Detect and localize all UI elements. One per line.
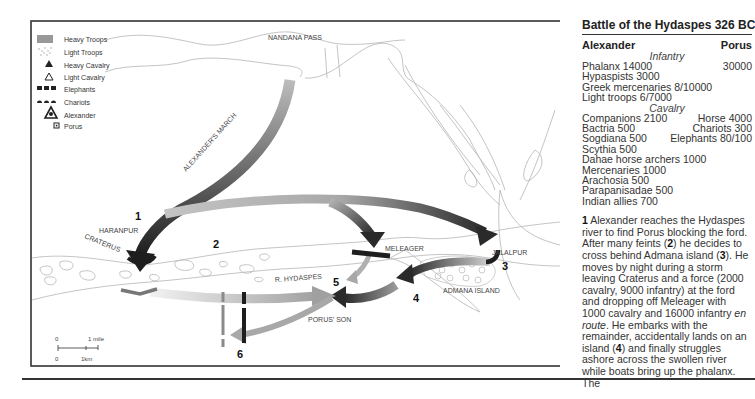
- marker-6: 6: [237, 348, 243, 360]
- marker-4: 4: [413, 292, 420, 304]
- legend-label: Porus: [64, 123, 83, 130]
- legend-label: Light Troops: [64, 49, 103, 57]
- place-label-jalalpur: JALALPUR: [492, 249, 527, 256]
- porus-header: Porus: [721, 40, 752, 51]
- infantry-list: Phalanx 1400030000 Hypaspists 3000 Greek…: [582, 61, 752, 103]
- bottom-rule: [22, 378, 755, 380]
- battle-narrative: 1 Alexander reaches the Hydaspes river t…: [582, 215, 752, 389]
- battle-map: Heavy Troops Light Troops Heavy Cavalry …: [0, 0, 560, 399]
- alexander-unit: Indian allies 700: [582, 196, 658, 206]
- panel-title: Battle of the Hydaspes 326 BC: [582, 18, 752, 35]
- marker-5: 5: [333, 276, 339, 288]
- force-row: Indian allies 700: [582, 196, 752, 206]
- legend-label: Elephants: [64, 86, 96, 94]
- map-frame: [31, 21, 560, 366]
- chariots-icon: [37, 101, 56, 104]
- marker-1: 1: [135, 210, 141, 222]
- elephants-icon: [37, 86, 56, 90]
- marker-2: 2: [213, 238, 219, 250]
- place-label-admana-island: ADMANA ISLAND: [443, 287, 500, 294]
- place-label-meleager: MELEAGER: [385, 245, 424, 252]
- porus-unit: Elephants 80/100: [670, 133, 752, 143]
- legend-label: Light Cavalry: [64, 74, 105, 82]
- scale-km-label: 1km: [81, 356, 92, 362]
- legend-label: Heavy Cavalry: [64, 62, 110, 70]
- legend-label: Heavy Troops: [64, 36, 108, 44]
- scale-mile-label: 1 mile: [88, 336, 105, 342]
- place-label-porus-son: PORUS' SON: [308, 316, 351, 323]
- legend-label: Chariots: [64, 99, 91, 106]
- porus-unit: 30000: [723, 61, 752, 71]
- place-label-haranpur: HARANPUR: [99, 227, 138, 234]
- place-label-nandana-pass: NANDANA PASS: [268, 34, 322, 41]
- cavalry-list: Companions 2100Horse 4000 Bactria 500Cha…: [582, 113, 752, 207]
- alexander-header: Alexander: [582, 40, 635, 51]
- order-of-battle-panel: Battle of the Hydaspes 326 BC Alexander …: [582, 18, 752, 389]
- legend-label: Alexander: [64, 112, 96, 119]
- marker-3: 3: [502, 260, 508, 272]
